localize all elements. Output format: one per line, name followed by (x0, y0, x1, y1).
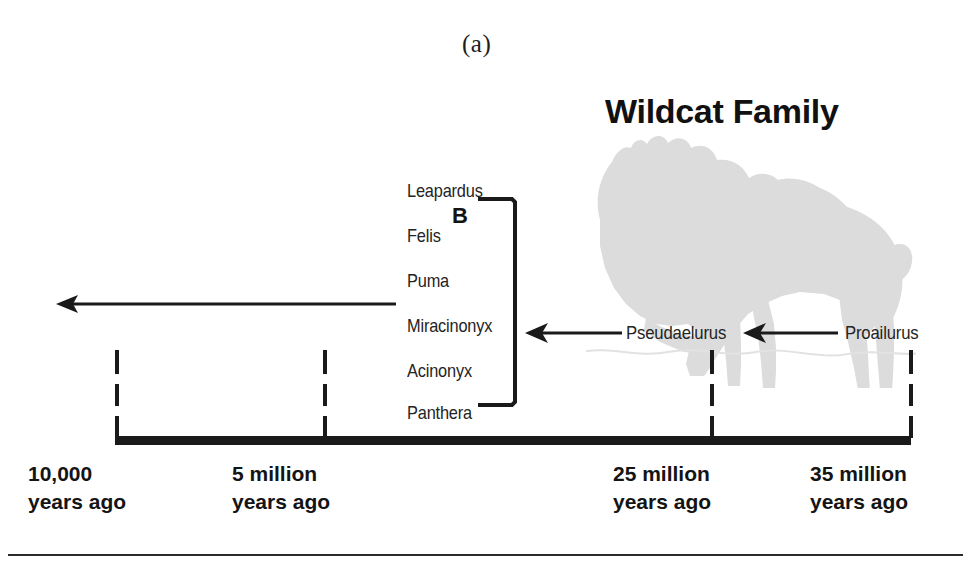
tick-dash-5m-upper (323, 350, 327, 374)
clade-bracket (478, 190, 522, 414)
tick-dash-35m-upper (909, 350, 913, 374)
lion-silhouette-icon (586, 128, 916, 388)
tick-dash-10000-lower (115, 416, 119, 438)
axis-label-35m-line1: 35 million (810, 460, 908, 488)
axis-label-5m-line2: years ago (232, 488, 330, 516)
ancestor-label-pseudaelurus: Pseudaelurus (626, 322, 726, 344)
timeline-axis-bar (115, 436, 911, 445)
tick-dash-25m-upper (710, 350, 714, 374)
tick-dash-25m-mid (710, 384, 714, 406)
tick-dash-10000-upper (115, 350, 119, 374)
axis-label-5-million-years-ago: 5 million years ago (232, 460, 330, 515)
figure-panel: (a) Wildcat Family B Leapard (0, 0, 970, 566)
footer-divider (8, 554, 963, 556)
axis-label-25m-line1: 25 million (613, 460, 711, 488)
tick-dash-35m-mid (909, 384, 913, 406)
tick-dash-25m-lower (710, 416, 714, 438)
axis-label-35m-line2: years ago (810, 488, 908, 516)
panel-letter: (a) (462, 30, 491, 58)
axis-label-10000-line1: 10,000 (28, 460, 126, 488)
tick-dash-5m-mid (323, 384, 327, 406)
arrow-pseudaelurus-to-clade (522, 318, 624, 348)
ancestor-label-proailurus: Proailurus (845, 322, 919, 344)
genus-label-puma: Puma (407, 270, 449, 292)
page-title: Wildcat Family (605, 92, 839, 131)
genus-label-acinonyx: Acinonyx (407, 360, 472, 382)
axis-label-5m-line1: 5 million (232, 460, 330, 488)
arrow-clade-to-present (52, 288, 398, 320)
axis-label-10000-line2: years ago (28, 488, 126, 516)
arrow-proailurus-to-pseudaelurus (740, 318, 840, 348)
clade-letter-b: B (452, 203, 468, 229)
axis-label-35-million-years-ago: 35 million years ago (810, 460, 908, 515)
genus-label-felis: Felis (407, 225, 441, 247)
tick-dash-10000-mid (115, 384, 119, 406)
tick-dash-5m-lower (323, 416, 327, 438)
axis-label-25-million-years-ago: 25 million years ago (613, 460, 711, 515)
tick-dash-35m-lower (909, 416, 913, 438)
genus-label-panthera: Panthera (407, 402, 472, 424)
genus-label-leapardus: Leapardus (407, 180, 483, 202)
axis-label-10000-years-ago: 10,000 years ago (28, 460, 126, 515)
axis-label-25m-line2: years ago (613, 488, 711, 516)
